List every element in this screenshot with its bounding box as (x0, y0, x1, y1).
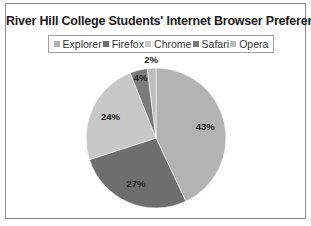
pie-chart: 43%27%24%4%2% (0, 0, 311, 226)
data-label-firefox: 27% (126, 178, 146, 189)
data-label-safari: 4% (134, 72, 148, 83)
data-label-explorer: 43% (196, 121, 216, 132)
data-label-opera: 2% (144, 54, 158, 65)
pie-slices (86, 68, 226, 208)
data-label-chrome: 24% (101, 111, 121, 122)
